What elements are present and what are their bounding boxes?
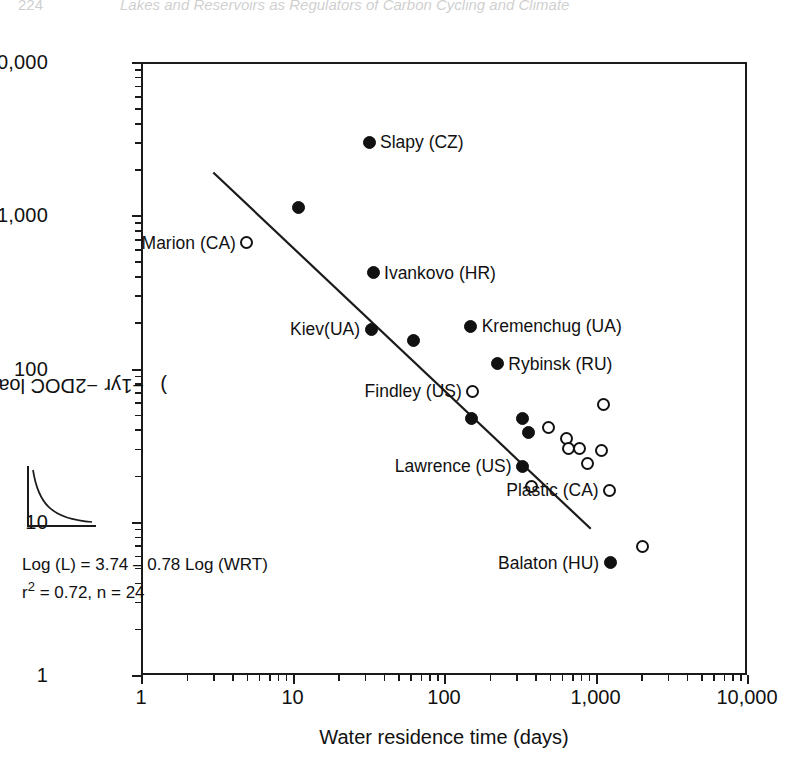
y-tick-minor (135, 169, 141, 171)
y-tick-minor (135, 222, 141, 224)
data-point-ivankovo-hr (367, 266, 380, 279)
point-label-lawrence-us: Lawrence (US) (395, 456, 512, 477)
data-point-findley-us (466, 385, 479, 398)
y-tick-minor (135, 545, 141, 547)
page-number: 224 (18, 0, 43, 13)
figure-doc-loading-scatter: 224 Lakes and Reservoirs as Regulators o… (0, 0, 800, 774)
x-tick-minor (278, 675, 280, 681)
stats-rest: = 0.72, n = 24 (35, 582, 145, 601)
point-label-marion-ca: Marion (CA) (142, 232, 236, 253)
y-tick-minor (135, 529, 141, 531)
x-tick-major (596, 675, 598, 684)
x-tick-minor (535, 675, 537, 681)
x-tick-minor (732, 675, 734, 681)
y-tick-minor (135, 261, 141, 263)
y-tick-minor (135, 449, 141, 451)
y-tick-minor (135, 402, 141, 404)
x-tick-minor (213, 675, 215, 681)
data-point-balaton-hu (604, 556, 617, 569)
y-tick-minor (135, 537, 141, 539)
x-tick-minor (589, 675, 591, 681)
page-header-text: Lakes and Reservoirs as Regulators of Ca… (120, 0, 569, 13)
y-tick-major (132, 369, 141, 371)
x-tick-minor (713, 675, 715, 681)
x-tick-minor (398, 675, 400, 681)
x-tick-minor (232, 675, 234, 681)
decay-curve-sketch-icon (22, 462, 100, 534)
x-tick-minor (247, 675, 249, 681)
x-tick-minor (641, 675, 643, 681)
y-tick-major (132, 522, 141, 524)
x-tick-minor (724, 675, 726, 681)
data-point-slapy-cz (363, 136, 376, 149)
x-tick-minor (187, 675, 189, 681)
y-tick-minor (135, 123, 141, 125)
x-tick-minor (701, 675, 703, 681)
x-tick-minor (429, 675, 431, 681)
data-point (516, 412, 529, 425)
data-point (407, 334, 420, 347)
x-tick-minor (437, 675, 439, 681)
data-point-rybinsk-ru (491, 357, 504, 370)
x-tick-minor (516, 675, 518, 681)
x-tick-minor (740, 675, 742, 681)
equation-line: Log (L) = 3.74 – 0.78 Log (WRT) (22, 553, 268, 578)
x-tick-minor (259, 675, 261, 681)
equation-annotation: Log (L) = 3.74 – 0.78 Log (WRT) r2 = 0.7… (22, 553, 268, 605)
x-tick-label: 1 (135, 686, 146, 709)
x-tick-major (141, 675, 143, 684)
x-tick-minor (365, 675, 367, 681)
data-point-kiev-ua (365, 323, 378, 336)
stats-r-sup: 2 (28, 579, 35, 594)
y-tick-major (132, 62, 141, 64)
data-point (573, 442, 586, 455)
x-tick-label: 10,000 (716, 686, 777, 709)
data-point (636, 540, 649, 553)
stats-line: r2 = 0.72, n = 24 (22, 578, 268, 605)
y-tick-minor (135, 77, 141, 79)
data-point (581, 457, 594, 470)
x-tick-minor (286, 675, 288, 681)
x-tick-minor (562, 675, 564, 681)
y-tick-major (132, 215, 141, 217)
y-tick-minor (135, 415, 141, 417)
x-tick-minor (687, 675, 689, 681)
y-tick-minor (135, 86, 141, 88)
point-label-slapy-cz: Slapy (CZ) (380, 132, 464, 153)
point-label-ivankovo-hr: Ivankovo (HR) (384, 262, 496, 283)
x-tick-minor (338, 675, 340, 681)
x-tick-minor (421, 675, 423, 681)
data-point (522, 426, 535, 439)
y-tick-minor (135, 96, 141, 98)
y-tick-label: 1 (37, 664, 48, 687)
x-axis-title: Water residence time (days) (141, 726, 747, 749)
data-point-lawrence-us (516, 460, 529, 473)
point-label-rybinsk-ru: Rybinsk (RU) (508, 353, 612, 374)
x-tick-minor (572, 675, 574, 681)
data-point (292, 201, 305, 214)
x-tick-minor (581, 675, 583, 681)
x-tick-minor (269, 675, 271, 681)
data-point-marion-ca (240, 236, 253, 249)
x-tick-major (444, 675, 446, 684)
y-tick-major (132, 675, 141, 677)
x-tick-minor (410, 675, 412, 681)
x-tick-major (747, 675, 749, 684)
point-label-plastic-ca: Plastic (CA) (506, 480, 598, 501)
data-point-plastic-ca (603, 484, 616, 497)
data-point (595, 444, 608, 457)
y-tick-minor (135, 239, 141, 241)
y-tick-minor (135, 230, 141, 232)
y-tick-minor (135, 108, 141, 110)
point-label-findley-us: Findley (US) (365, 381, 462, 402)
y-tick-minor (135, 249, 141, 251)
point-label-kremenchug-ua: Kremenchug (UA) (482, 316, 622, 337)
y-tick-minor (135, 69, 141, 71)
x-tick-minor (550, 675, 552, 681)
y-tick-minor (135, 322, 141, 324)
x-tick-label: 100 (427, 686, 460, 709)
y-axis-title-suffix: ) (0, 374, 167, 397)
x-tick-major (293, 675, 295, 684)
y-tick-minor (135, 295, 141, 297)
x-tick-label: 1,000 (570, 686, 620, 709)
